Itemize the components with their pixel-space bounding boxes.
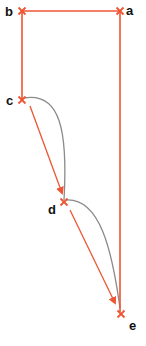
node-a-label: a	[126, 3, 134, 18]
arrow-d-to-e	[70, 210, 115, 303]
diagram-canvas: a b c d e	[0, 0, 146, 346]
arrow-c-to-d	[30, 106, 62, 193]
node-d-label: d	[48, 202, 56, 217]
node-e-marker-icon	[118, 311, 125, 318]
node-e-label: e	[129, 318, 136, 333]
node-c-label: c	[6, 93, 13, 108]
node-b-label: b	[5, 4, 13, 19]
curve-d-to-e	[66, 200, 120, 308]
